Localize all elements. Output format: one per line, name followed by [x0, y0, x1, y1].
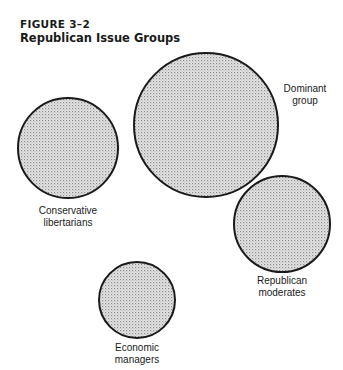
circle-conservative-libertarians — [18, 98, 118, 198]
label-republican-moderates: Republican moderates — [227, 275, 337, 299]
circle-dominant-group — [134, 53, 278, 197]
issue-groups-diagram — [0, 0, 343, 370]
label-economic-managers: Economic managers — [82, 342, 192, 366]
label-dominant-group: Dominant group — [250, 83, 343, 107]
circle-republican-moderates — [234, 176, 330, 272]
circle-economic-managers — [99, 262, 175, 338]
label-conservative-libertarians: Conservative libertarians — [13, 205, 123, 229]
